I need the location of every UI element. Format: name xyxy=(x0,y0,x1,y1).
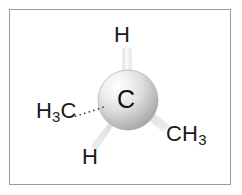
molecule-figure: H H3C H CH3 C xyxy=(0,0,242,195)
h-top-text: H xyxy=(114,22,130,47)
ch3-subscript-text: 3 xyxy=(198,131,206,148)
h-bottom-text: H xyxy=(82,144,98,169)
h3c-main-text: H xyxy=(36,98,52,123)
ch3-main-text: CH xyxy=(166,121,198,146)
atom-label-h-top: H xyxy=(114,24,130,46)
atom-label-h-bottom: H xyxy=(82,146,98,168)
carbon-center-text: C xyxy=(117,85,135,113)
h3c-tail-text: C xyxy=(60,98,76,123)
atom-label-carbon-center: C xyxy=(117,87,135,112)
h3c-subscript-text: 3 xyxy=(52,108,60,125)
atom-label-ch3-right: CH3 xyxy=(166,123,207,145)
atom-label-h3c-left: H3C xyxy=(36,100,77,122)
